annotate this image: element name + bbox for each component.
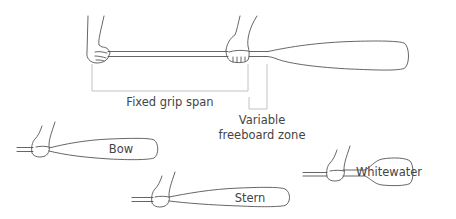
variable-freeboard-bracket	[249, 64, 267, 109]
whitewater-label: Whitewater	[356, 165, 422, 179]
fixed-grip-span-label: Fixed grip span	[126, 95, 213, 109]
fixed-grip-span-bracket	[92, 64, 248, 91]
main-paddle-shaft	[108, 52, 268, 57]
bow-paddle: Bow	[17, 122, 158, 160]
bow-label: Bow	[109, 142, 133, 156]
whitewater-paddle: Whitewater	[303, 146, 422, 186]
variable-label: Variable	[239, 113, 286, 127]
main-paddle-blade	[266, 41, 409, 70]
main-paddle	[87, 16, 409, 70]
freeboard-zone-label: freeboard zone	[219, 128, 306, 142]
stern-label: Stern	[235, 191, 266, 205]
left-hand-icon	[87, 16, 110, 63]
right-hand-icon	[226, 16, 257, 63]
stern-paddle: Stern	[132, 172, 290, 207]
paddle-grip-diagram: Fixed grip span Variable freeboard zone …	[0, 0, 456, 219]
